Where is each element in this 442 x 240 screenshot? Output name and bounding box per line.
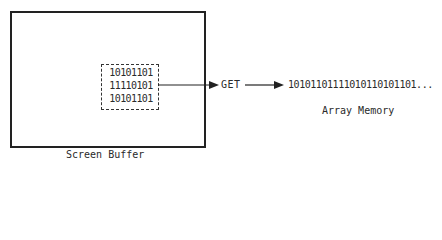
screen-buffer-label: Screen Buffer [66, 149, 144, 160]
arrowhead-icon [274, 81, 284, 89]
array-memory-label: Array Memory [322, 105, 394, 116]
arrowhead-icon [209, 81, 219, 89]
get-operation-label: GET [221, 79, 241, 90]
array-memory-contents: 10101101111010110101101... [288, 79, 433, 90]
